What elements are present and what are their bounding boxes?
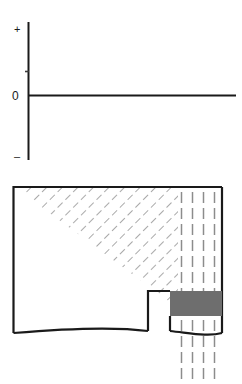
figure-canvas: + 0 –: [0, 0, 242, 384]
bottom-curve-left: [14, 328, 149, 333]
grey-block: [170, 291, 222, 316]
figure-root: + 0 –: [0, 0, 242, 384]
axis-panel: + 0 –: [12, 22, 236, 162]
axis-label-positive: +: [14, 23, 20, 35]
vertical-hatch-region: [178, 186, 222, 380]
diagonal-hatch-region: [13, 186, 178, 305]
hatched-diagram-panel: [13, 186, 222, 380]
axis-label-negative: –: [14, 150, 21, 162]
axis-label-zero: 0: [12, 89, 19, 103]
